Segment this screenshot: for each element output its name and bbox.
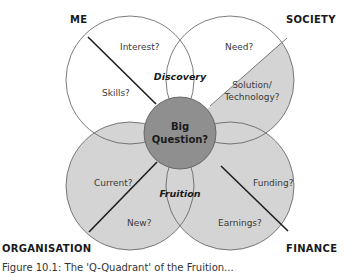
center-label-big: Big (171, 121, 189, 132)
label-organisation: ORGANISATION (2, 243, 91, 254)
region-need: Need? (225, 42, 254, 52)
lens-discovery: Discovery (154, 71, 207, 82)
figure-caption: Figure 10.1: The 'Q-Quadrant' of the Fru… (2, 262, 234, 273)
lens-fruition: Fruition (159, 188, 200, 199)
label-society: SOCIETY (286, 14, 336, 25)
region-new: New? (127, 218, 152, 228)
region-technology: Technology? (223, 92, 279, 102)
region-skills: Skills? (102, 88, 130, 98)
region-interest: Interest? (120, 42, 160, 52)
center-label-question: Question? (152, 134, 209, 145)
region-earnings: Earnings? (218, 218, 262, 228)
region-funding: Funding? (253, 178, 294, 188)
region-solution: Solution/ (232, 80, 273, 90)
label-finance: FINANCE (286, 243, 337, 254)
label-me: ME (70, 14, 87, 25)
center-big-question-circle (144, 97, 216, 169)
region-current: Current? (94, 178, 133, 188)
